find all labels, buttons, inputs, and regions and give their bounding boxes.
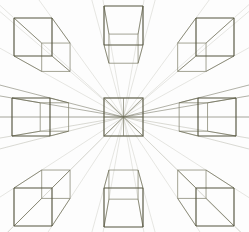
cube-grid-canvas [0, 0, 249, 232]
perspective-figure [0, 0, 249, 232]
cube-center [104, 98, 143, 136]
